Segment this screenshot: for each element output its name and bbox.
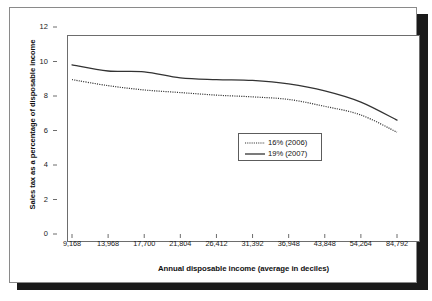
x-tick-label: 84,792 (374, 239, 420, 248)
y-axis-ticks (53, 27, 57, 234)
x-axis-ticks (72, 234, 397, 238)
y-tick-label: 10 (26, 57, 48, 66)
y-tick-label: 2 (26, 195, 48, 204)
data-series-layer (72, 65, 397, 132)
chart-canvas (0, 0, 432, 301)
series-line-0 (72, 80, 397, 133)
y-tick-label: 12 (26, 22, 48, 31)
y-tick-label: 6 (26, 126, 48, 135)
y-tick-label: 8 (26, 91, 48, 100)
chart-figure: Sales tax as a percentage of disposable … (0, 0, 432, 301)
y-tick-label: 4 (26, 160, 48, 169)
series-line-1 (72, 65, 397, 120)
y-tick-label: 0 (26, 229, 48, 238)
